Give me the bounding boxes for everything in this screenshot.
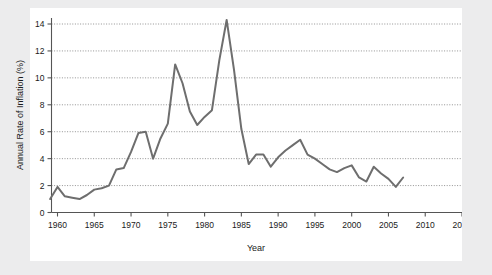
x-tick-label: 1980 xyxy=(195,220,214,230)
y-tick-label: 4 xyxy=(40,154,45,164)
gridlines-group xyxy=(52,24,463,186)
y-tick-label: 2 xyxy=(40,181,45,191)
x-tick-label: 2005 xyxy=(379,220,398,230)
y-tick-label: 14 xyxy=(35,19,45,29)
x-axis-title: Year xyxy=(247,243,265,253)
y-tick-label: 10 xyxy=(35,73,45,83)
y-tick-label: 0 xyxy=(40,208,45,218)
x-tick-label: 1985 xyxy=(232,220,251,230)
y-ticks-group: 02468101214 xyxy=(35,19,51,218)
y-axis-title-svg: Annual Rate of Inflation (%) xyxy=(12,8,30,261)
x-tick-label: 2010 xyxy=(416,220,435,230)
x-tick-label: 1970 xyxy=(122,220,141,230)
x-tick-label: 2000 xyxy=(342,220,361,230)
chart-figure: 02468101214 1960196519701975198019851990… xyxy=(30,8,462,261)
y-tick-label: 6 xyxy=(40,127,45,137)
x-tick-label: 1990 xyxy=(269,220,288,230)
x-ticks-group: 1960196519701975198019851990199520002005… xyxy=(48,213,462,230)
x-tick-label: 1960 xyxy=(48,220,67,230)
inflation-data-line xyxy=(50,20,403,199)
y-tick-label: 12 xyxy=(35,46,45,56)
x-tick-label: 1965 xyxy=(85,220,104,230)
y-axis-title: Annual Rate of Inflation (%) xyxy=(15,60,25,170)
x-tick-label: 1975 xyxy=(158,220,177,230)
inflation-line-chart-svg: 02468101214 1960196519701975198019851990… xyxy=(30,8,462,261)
x-tick-label: 2015 xyxy=(453,220,462,230)
y-tick-label: 8 xyxy=(40,100,45,110)
x-tick-label: 1995 xyxy=(305,220,324,230)
chart-plot-area: 02468101214 1960196519701975198019851990… xyxy=(30,8,462,261)
